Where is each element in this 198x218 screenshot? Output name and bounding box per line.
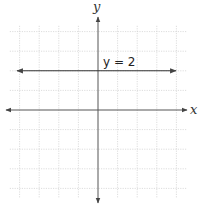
y-axis-label: y (92, 0, 101, 14)
coordinate-plane: x y y = 2 (0, 0, 198, 218)
x-axis-label: x (190, 102, 198, 117)
equation-label: y = 2 (103, 55, 135, 69)
